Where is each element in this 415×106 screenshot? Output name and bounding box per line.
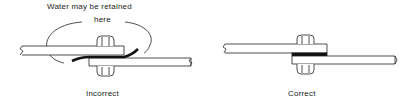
gasket-aligned [292,53,327,56]
caption-incorrect: Incorrect [86,89,119,98]
bolt-head-top [97,36,114,46]
caption-correct: Correct [288,89,316,98]
retention-area-outline-right [125,22,151,53]
bolt-nut-bottom [97,66,114,76]
retention-area-outline [47,22,82,63]
incorrect-diagram [20,22,192,76]
diagram-canvas [0,0,415,106]
upper-plate [22,46,124,55]
lower-plate [292,56,395,64]
annotation-label-line2: here [94,15,111,24]
bolt-head-top [297,35,314,44]
bolt-nut-bottom [297,64,314,74]
lower-plate [89,58,191,66]
annotation-label-line1: Water may be retained [47,2,132,11]
upper-plate [225,44,327,53]
correct-diagram [223,35,397,74]
